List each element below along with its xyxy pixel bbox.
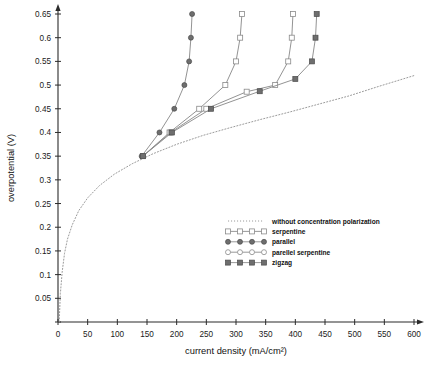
data-point-marker	[262, 229, 267, 234]
data-point-marker	[190, 12, 195, 17]
data-point-marker	[262, 239, 267, 244]
data-point-marker	[238, 260, 243, 265]
data-point-marker	[187, 59, 192, 64]
x-tick-label: 100	[110, 330, 124, 339]
y-tick-label: 0.5	[40, 81, 52, 90]
x-tick-label: 350	[259, 330, 273, 339]
y-axis-title: overpotential (V)	[6, 134, 16, 202]
y-tick-label: 0.3	[40, 176, 52, 185]
data-point-marker	[250, 260, 255, 265]
y-tick-label: 0.05	[35, 294, 51, 303]
x-tick-label: 300	[229, 330, 243, 339]
data-point-marker	[157, 130, 162, 135]
data-point-marker	[226, 229, 231, 234]
x-tick-label: 150	[140, 330, 154, 339]
data-point-marker	[226, 250, 231, 255]
data-point-marker	[314, 12, 319, 17]
y-tick-label: 0.65	[35, 10, 51, 19]
x-axis-arrow	[417, 319, 424, 324]
data-point-marker	[238, 250, 243, 255]
y-tick-label: 0.45	[35, 105, 51, 114]
data-point-marker	[238, 229, 243, 234]
data-point-marker	[239, 12, 244, 17]
series-without-concentration-polarization	[59, 76, 414, 322]
polarization-curve-figure: 050100150200250300350400450500550600curr…	[0, 0, 434, 365]
y-tick-label: 0.2	[40, 223, 52, 232]
data-point-marker	[182, 83, 187, 88]
chart-canvas: 050100150200250300350400450500550600curr…	[0, 0, 434, 365]
data-point-marker	[250, 250, 255, 255]
y-tick-label: 0.15	[35, 247, 51, 256]
data-point-marker	[313, 35, 318, 40]
data-point-marker	[209, 106, 214, 111]
x-tick-label: 600	[407, 330, 421, 339]
y-tick-label: 0.1	[40, 271, 52, 280]
data-point-marker	[262, 260, 267, 265]
data-point-marker	[290, 12, 295, 17]
y-tick-label: 0.25	[35, 200, 51, 209]
data-point-marker	[197, 106, 202, 111]
x-tick-label: 50	[83, 330, 93, 339]
data-point-marker	[244, 89, 249, 94]
legend-entry-label: serpentine	[272, 228, 306, 236]
data-point-marker	[238, 35, 243, 40]
data-point-marker	[172, 106, 177, 111]
y-axis-arrow	[55, 4, 60, 11]
data-point-marker	[293, 76, 298, 81]
legend-entry-label: parellel serpentine	[272, 249, 331, 257]
data-point-marker	[309, 59, 314, 64]
data-point-marker	[250, 239, 255, 244]
data-point-marker	[188, 35, 193, 40]
data-point-marker	[223, 83, 228, 88]
legend-entry-label: without concentration polarization	[271, 218, 380, 226]
data-point-marker	[262, 250, 267, 255]
x-tick-label: 0	[56, 330, 61, 339]
data-point-marker	[169, 130, 174, 135]
x-tick-label: 500	[348, 330, 362, 339]
x-axis-title: current density (mA/cm²)	[185, 346, 287, 356]
data-point-marker	[286, 59, 291, 64]
data-point-marker	[238, 239, 243, 244]
x-tick-label: 250	[199, 330, 213, 339]
x-tick-label: 550	[377, 330, 391, 339]
data-point-marker	[226, 260, 231, 265]
data-point-marker	[140, 154, 145, 159]
data-point-marker	[250, 229, 255, 234]
data-point-marker	[257, 89, 262, 94]
series-line	[143, 14, 293, 156]
x-tick-label: 450	[318, 330, 332, 339]
data-point-marker	[289, 35, 294, 40]
legend-entry-label: zigzag	[272, 259, 292, 267]
y-tick-label: 0.4	[40, 128, 52, 137]
series-parellel-serpentine	[143, 14, 293, 156]
y-tick-label: 0.35	[35, 152, 51, 161]
series-line	[59, 76, 414, 322]
data-point-marker	[226, 239, 231, 244]
y-tick-label: 0.55	[35, 57, 51, 66]
x-tick-label: 200	[170, 330, 184, 339]
y-tick-label: 0.6	[40, 34, 52, 43]
legend-entry-label: parallel	[272, 238, 295, 246]
x-tick-label: 400	[288, 330, 302, 339]
data-point-marker	[234, 59, 239, 64]
